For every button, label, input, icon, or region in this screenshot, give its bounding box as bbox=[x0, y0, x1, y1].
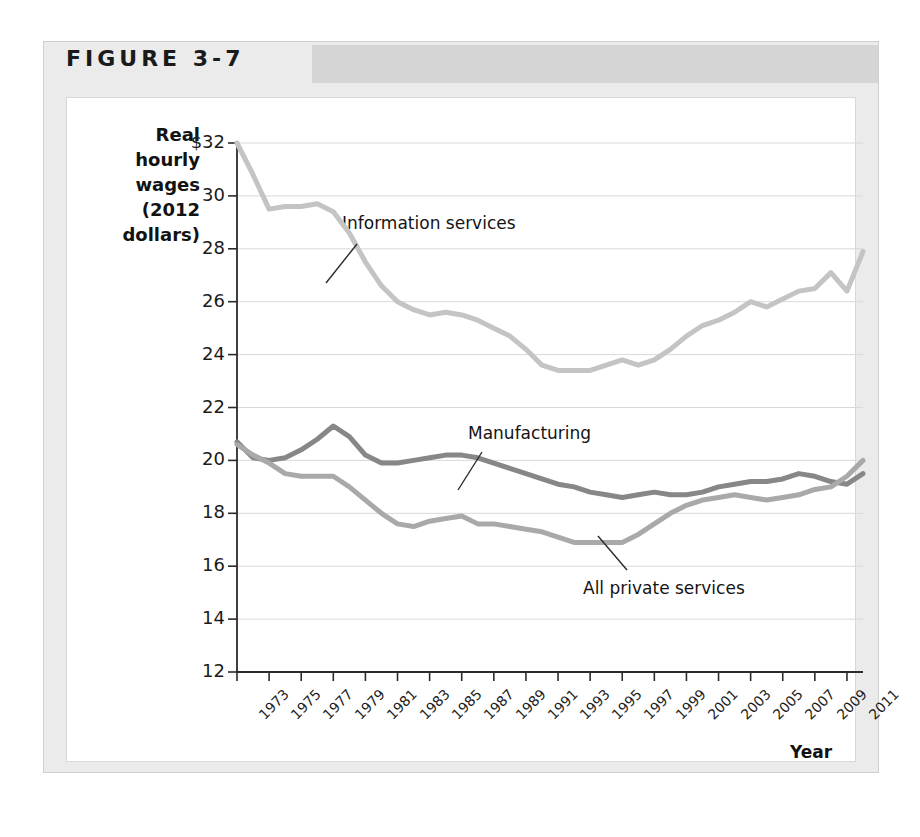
y-axis-tick-label: 16 bbox=[179, 554, 225, 575]
y-axis-tick-label: 24 bbox=[179, 343, 225, 364]
y-axis-tick-label: 14 bbox=[179, 607, 225, 628]
x-axis-title: Year bbox=[790, 742, 832, 762]
y-axis-tick-label: 28 bbox=[179, 237, 225, 258]
series-label-manufacturing: Manufacturing bbox=[468, 423, 591, 443]
figure-header-band bbox=[312, 45, 878, 83]
y-axis-tick-label: $32 bbox=[179, 131, 225, 152]
y-axis-tick-label: 22 bbox=[179, 396, 225, 417]
y-axis-tick-label: 30 bbox=[179, 184, 225, 205]
figure-title: FIGURE 3-7 bbox=[66, 46, 245, 71]
y-axis-tick-label: 18 bbox=[179, 501, 225, 522]
series-label-information-services: Information services bbox=[342, 213, 516, 233]
figure-root: FIGURE 3-7 Realhourlywages(2012dollars) … bbox=[0, 0, 920, 837]
y-axis-tick-label: 20 bbox=[179, 448, 225, 469]
y-axis-tick-label: 26 bbox=[179, 290, 225, 311]
y-axis-tick-label: 12 bbox=[179, 660, 225, 681]
series-label-all-private-services: All private services bbox=[583, 578, 745, 598]
